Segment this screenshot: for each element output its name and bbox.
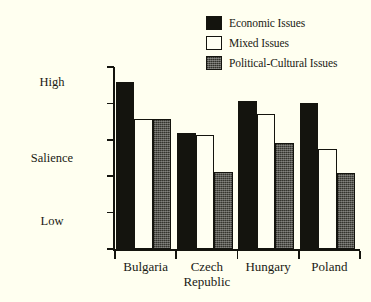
x-axis-tick <box>175 251 177 259</box>
x-axis-category-labels: BulgariaCzech RepublicHungaryPoland <box>115 259 360 302</box>
x-axis-tick <box>114 251 116 259</box>
bar-poland-series-0 <box>300 103 319 249</box>
legend-item-mixed-issues: Mixed Issues <box>206 33 371 52</box>
bar-czech-republic-series-2 <box>214 172 233 249</box>
y-axis-tick <box>107 175 114 177</box>
bar-poland-series-2 <box>337 173 356 249</box>
bar-czech-republic-series-0 <box>177 133 196 249</box>
bar-hungary-series-2 <box>275 143 294 249</box>
y-axis-tick <box>107 103 114 105</box>
plot-area <box>115 67 360 249</box>
bar-bulgaria-series-1 <box>134 119 153 249</box>
legend-item-economic-issues: Economic Issues <box>206 13 371 32</box>
legend-label: Mixed Issues <box>229 37 289 49</box>
axis-descriptor-salience: Salience <box>16 152 88 165</box>
legend-label: Economic Issues <box>229 17 305 29</box>
bar-bulgaria-series-0 <box>116 82 135 249</box>
bar-poland-series-1 <box>318 149 337 249</box>
y-axis-tick <box>107 248 114 250</box>
axis-descriptor-high: High <box>16 76 88 89</box>
x-axis-tick <box>237 251 239 259</box>
x-axis-category-label: Poland <box>291 259 368 274</box>
bar-chart: Economic Issues Mixed Issues Political-C… <box>0 0 371 302</box>
black-square-icon <box>206 16 222 30</box>
axis-descriptor-low: Low <box>16 215 88 228</box>
chart-legend: Economic Issues Mixed Issues Political-C… <box>206 13 371 73</box>
y-axis-tick <box>107 212 114 214</box>
bar-bulgaria-series-2 <box>153 119 172 249</box>
white-square-icon <box>206 36 222 50</box>
bar-hungary-series-1 <box>257 114 276 249</box>
x-axis-tick <box>359 251 361 259</box>
y-axis-tick <box>107 139 114 141</box>
bar-hungary-series-0 <box>238 101 257 250</box>
y-axis-tick <box>107 66 114 68</box>
bar-czech-republic-series-1 <box>196 135 215 249</box>
x-axis-tick <box>298 251 300 259</box>
